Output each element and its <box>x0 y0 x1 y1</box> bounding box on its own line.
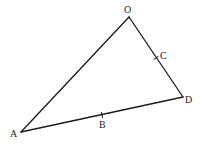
edge-o-d <box>129 17 183 97</box>
label-b: B <box>99 119 106 130</box>
label-o: O <box>124 4 131 15</box>
label-c: C <box>160 50 167 61</box>
label-a: A <box>10 128 18 139</box>
tick-mark-b <box>101 112 102 118</box>
label-d: D <box>185 94 192 105</box>
edge-a-o <box>21 17 129 132</box>
triangle-diagram: O A D C B <box>0 0 206 145</box>
